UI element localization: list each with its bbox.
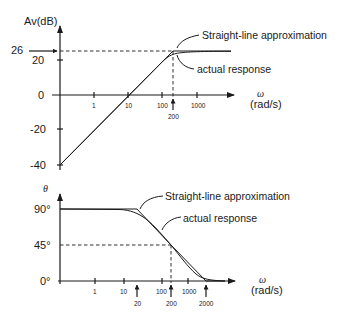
phase-plot: θ 90° 45° 0° 1 10 100 1000 20 200 2000 [34,183,290,307]
actual-callout-label: actual response [183,212,257,224]
tick-label-10: 10 [125,102,133,109]
tick-label-1000: 1000 [191,102,206,109]
actual-callout-label: actual response [197,63,271,75]
tick-label-10: 10 [120,288,128,295]
unit-label: (rad/s) [251,284,283,296]
marker-label-26db: 26 [11,44,23,56]
actual-callout-leader [177,55,194,69]
phase-y-axis-label: θ [43,183,48,194]
actual-callout-leader [162,217,181,230]
tick-label-1: 1 [93,288,97,295]
approx-callout-leader [177,35,199,48]
marker-label-2000: 2000 [199,300,214,307]
tick-label-0db: 0 [38,89,44,101]
tick-label-45deg: 45° [34,239,51,251]
tick-label-90deg: 90° [34,203,51,215]
tick-label-100: 100 [156,288,167,295]
tick-label-1000: 1000 [182,288,197,295]
unit-label: (rad/s) [250,98,282,110]
tick-label-100: 100 [157,102,168,109]
approx-callout-label: Straight-line approximation [165,190,290,202]
marker-label-200: 200 [166,300,177,307]
tick-label-1: 1 [92,102,96,109]
marker-label-20: 20 [134,300,142,307]
magnitude-y-ticks: 20 0 -20 -40 [30,54,63,171]
magnitude-plot: Av(dB) 20 0 -20 -40 26 1 10 100 1000 [11,15,327,171]
approx-callout-leader [140,196,163,209]
marker-label-200: 200 [168,113,179,120]
tick-label-0deg: 0° [40,275,51,287]
tick-label-20db: 20 [32,54,44,66]
tick-label-minus40db: -40 [30,159,46,171]
bode-plot-figure: Av(dB) 20 0 -20 -40 26 1 10 100 1000 [0,0,339,327]
approx-callout-label: Straight-line approximation [202,29,327,41]
tick-label-minus20db: -20 [30,123,46,135]
magnitude-y-axis-label: Av(dB) [24,15,57,27]
